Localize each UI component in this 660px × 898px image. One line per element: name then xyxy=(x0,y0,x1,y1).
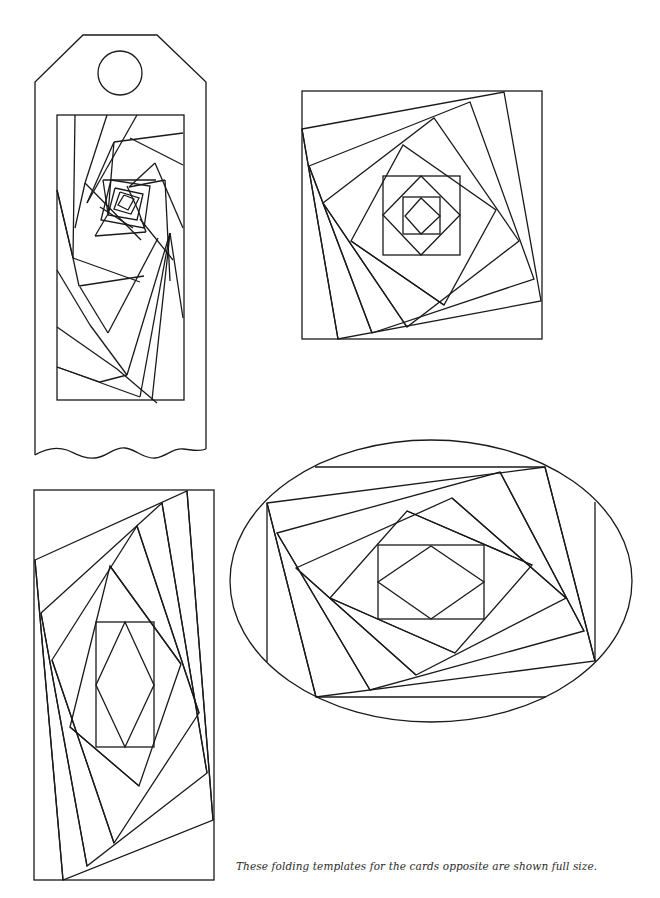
square-template xyxy=(302,91,542,339)
inner-square xyxy=(383,176,460,255)
fold-quad xyxy=(35,491,213,880)
inner-square xyxy=(403,197,440,234)
fold-line xyxy=(57,270,90,325)
fold-line xyxy=(267,503,316,697)
fold-line xyxy=(95,232,146,236)
center-diamond xyxy=(383,176,460,255)
tag-outline xyxy=(35,35,206,455)
fold-line xyxy=(162,503,207,773)
rectangle-template xyxy=(34,490,214,880)
fold-line xyxy=(80,287,108,333)
fold-line xyxy=(351,241,444,305)
fold-line xyxy=(70,727,139,786)
fold-line xyxy=(323,203,407,327)
tag-template xyxy=(35,35,206,458)
fold-line xyxy=(277,533,370,690)
fold-line xyxy=(452,498,566,598)
fold-line xyxy=(75,183,85,228)
fold-line xyxy=(73,258,79,286)
fold-line xyxy=(302,129,338,339)
fold-line xyxy=(57,327,117,369)
wavy-edge xyxy=(35,448,206,458)
fold-quad xyxy=(277,472,584,690)
fold-line xyxy=(170,233,183,318)
caption: These folding templates for the cards op… xyxy=(236,860,597,872)
hole-circle xyxy=(98,51,142,95)
fold-line xyxy=(57,190,73,258)
fold-quad xyxy=(296,498,566,675)
fold-line xyxy=(41,613,87,866)
fold-line xyxy=(108,238,158,333)
fold-line xyxy=(130,138,183,165)
fold-quad xyxy=(309,102,534,333)
fold-quad xyxy=(41,503,207,866)
fold-line xyxy=(52,660,114,843)
fold-line xyxy=(110,566,181,664)
fold-line xyxy=(100,375,127,382)
fold-line xyxy=(296,568,416,675)
fold-line xyxy=(73,115,75,258)
fold-line xyxy=(117,369,157,403)
center-diamond xyxy=(96,622,154,747)
fold-quad xyxy=(302,92,541,339)
fold-line xyxy=(187,491,213,820)
fold-line xyxy=(155,163,183,228)
fold-line xyxy=(330,598,455,653)
fold-line xyxy=(407,511,532,565)
inner-rect xyxy=(96,622,154,747)
templates-canvas xyxy=(0,0,660,898)
fold-quad xyxy=(351,145,496,305)
frame-rect xyxy=(302,91,542,339)
fold-line xyxy=(137,526,199,713)
oval-template xyxy=(230,440,632,722)
inner-rect xyxy=(378,545,484,619)
fold-quad xyxy=(70,566,181,786)
center-diamond xyxy=(378,546,484,619)
center-diamond xyxy=(405,198,440,234)
fold-quad xyxy=(267,467,595,697)
fold-line xyxy=(57,367,100,382)
fold-line xyxy=(35,560,63,880)
fold-line xyxy=(545,467,595,661)
